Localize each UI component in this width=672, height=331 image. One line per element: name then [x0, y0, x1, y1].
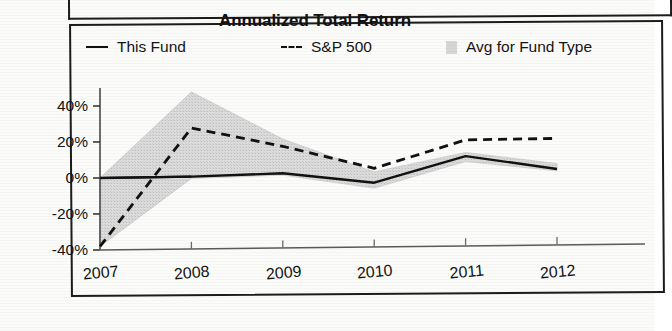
- y-tick-label: 40%: [57, 97, 88, 115]
- x-axis-tick-labels: 2007 2008 2009 2010 2011 2012: [0, 262, 654, 296]
- y-tick-label: 20%: [57, 133, 88, 151]
- gray-band-swatch-icon: [446, 41, 457, 54]
- legend-item-avg-for-fund-type: Avg for Fund Type: [446, 38, 592, 56]
- chart-legend: This Fund S&P 500 Avg for Fund Type: [86, 38, 666, 60]
- dashed-line-swatch-icon: [281, 46, 302, 48]
- y-tick-label: -40%: [52, 241, 88, 259]
- legend-label-this-fund: This Fund: [117, 38, 186, 56]
- x-tick-label: 2007: [82, 262, 119, 283]
- legend-item-sp500: S&P 500: [281, 38, 372, 56]
- x-tick-label: 2009: [265, 262, 302, 283]
- x-tick-label: 2008: [174, 262, 211, 283]
- y-tick-label: 0%: [66, 169, 88, 187]
- chart-title: Annualized Total Return: [0, 11, 630, 31]
- x-tick-label: 2011: [448, 262, 484, 283]
- chart-frame-border: [69, 20, 665, 297]
- x-tick-label: 2012: [539, 261, 576, 282]
- legend-label-avg-for-fund-type: Avg for Fund Type: [466, 38, 592, 56]
- legend-item-this-fund: This Fund: [86, 38, 186, 56]
- y-tick-label: -20%: [52, 205, 88, 223]
- legend-label-sp500: S&P 500: [311, 38, 372, 56]
- solid-line-swatch-icon: [86, 46, 108, 48]
- x-tick-label: 2010: [356, 262, 393, 283]
